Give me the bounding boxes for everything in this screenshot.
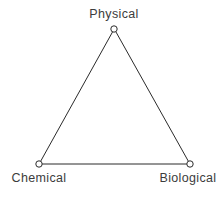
edge-physical-biological (116, 32, 189, 162)
vertex-label-biological: Biological (159, 172, 216, 185)
vertex-marker-chemical[interactable] (36, 161, 42, 167)
vertex-marker-physical[interactable] (111, 26, 117, 32)
vertex-marker-biological[interactable] (187, 161, 193, 167)
edge-chemical-physical (41, 32, 113, 162)
triangle-diagram (0, 0, 217, 197)
diagram-canvas: Physical Chemical Biological (0, 0, 217, 197)
vertex-label-chemical: Chemical (12, 172, 67, 185)
vertex-label-physical: Physical (89, 8, 138, 21)
